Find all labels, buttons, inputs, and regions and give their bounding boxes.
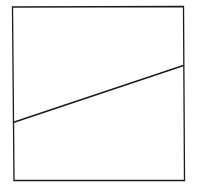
background (0, 0, 205, 189)
square-diagram (0, 0, 205, 189)
